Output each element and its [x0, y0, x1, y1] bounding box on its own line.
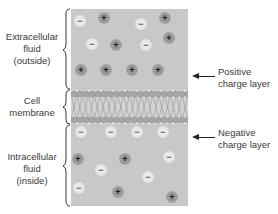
lipid-bilayer: [71, 90, 188, 124]
positive-ion-icon: +: [166, 191, 178, 203]
membrane-label: Cell membrane: [0, 95, 64, 119]
positive-ion-icon: +: [75, 64, 87, 76]
negative-ion-icon: −: [157, 126, 169, 138]
negative-layer-line1: Negative: [218, 127, 270, 139]
negative-layer-line2: charge layer: [218, 139, 270, 151]
intracellular-label: Intracellular fluid (inside): [0, 151, 64, 187]
positive-ion-icon: +: [163, 32, 175, 44]
positive-ion-icon: +: [100, 64, 112, 76]
arrow-negative: [198, 137, 215, 138]
negative-layer-label: Negative charge layer: [218, 127, 270, 151]
positive-ion-icon: +: [112, 186, 124, 198]
positive-ion-icon: +: [72, 153, 84, 165]
extracellular-line3: (outside): [0, 55, 64, 67]
extracellular-line2: fluid: [0, 43, 64, 55]
membrane-line2: membrane: [0, 107, 64, 119]
negative-ion-icon: −: [142, 171, 154, 183]
negative-ion-icon: −: [95, 164, 107, 176]
negative-ion-icon: −: [75, 126, 87, 138]
negative-ion-icon: −: [74, 15, 86, 27]
positive-ion-icon: +: [110, 39, 122, 51]
positive-ion-icon: +: [152, 64, 164, 76]
intracellular-line1: Intracellular: [0, 151, 64, 163]
membrane-line1: Cell: [0, 95, 64, 107]
positive-ion-icon: +: [119, 153, 131, 165]
extracellular-label: Extracellular fluid (outside): [0, 31, 64, 67]
negative-ion-icon: −: [73, 182, 85, 194]
negative-ion-icon: −: [86, 38, 98, 50]
intracellular-line3: (inside): [0, 175, 64, 187]
positive-layer-line1: Positive: [218, 66, 270, 78]
positive-ion-icon: +: [98, 12, 110, 24]
positive-ion-icon: +: [159, 12, 171, 24]
arrow-positive: [198, 76, 215, 77]
intracellular-line2: fluid: [0, 163, 64, 175]
negative-ion-icon: −: [140, 39, 152, 51]
negative-ion-icon: −: [163, 151, 175, 163]
positive-layer-line2: charge layer: [218, 78, 270, 90]
negative-ion-icon: −: [105, 126, 117, 138]
positive-ion-icon: +: [126, 64, 138, 76]
negative-ion-icon: −: [131, 126, 143, 138]
positive-layer-label: Positive charge layer: [218, 66, 270, 90]
negative-ion-icon: −: [135, 18, 147, 30]
extracellular-line1: Extracellular: [0, 31, 64, 43]
